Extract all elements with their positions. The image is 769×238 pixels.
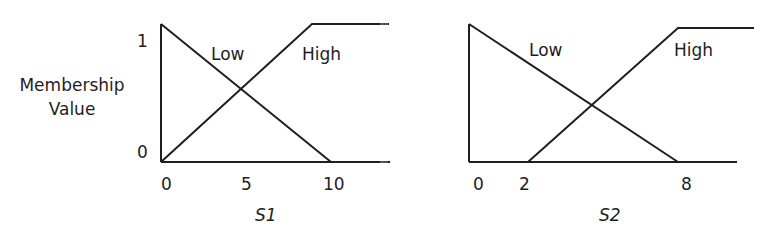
x-tick-s1-0: 0 — [161, 176, 172, 193]
y-axis-label: Membership Value — [14, 73, 130, 121]
y-axis-label-line2: Value — [14, 97, 130, 121]
x-tick-s2-8: 8 — [681, 176, 692, 193]
low-curve-s2 — [469, 24, 678, 162]
y-tick-0: 0 — [137, 144, 148, 161]
low-label-s2: Low — [529, 42, 562, 59]
x-tick-s2-0: 0 — [473, 176, 484, 193]
x-tick-s1-10: 10 — [323, 176, 345, 193]
low-label-s1: Low — [211, 46, 244, 63]
high-label-s1: High — [302, 46, 341, 63]
x-axis-title-s2: S2 — [599, 205, 621, 225]
y-tick-1: 1 — [137, 33, 148, 50]
x-axis-title-s1: S1 — [255, 205, 277, 225]
high-label-s2: High — [674, 42, 713, 59]
x-tick-s1-5: 5 — [241, 176, 252, 193]
high-curve-s1 — [161, 24, 389, 162]
x-tick-s2-2: 2 — [519, 176, 530, 193]
y-axis-label-line1: Membership — [14, 73, 130, 97]
chart-s1 — [161, 24, 390, 162]
